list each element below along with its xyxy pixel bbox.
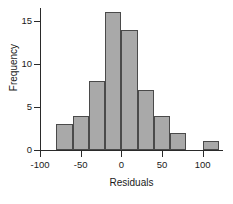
y-axis-label: Frequency <box>8 23 19 113</box>
x-tick-100 <box>203 151 204 157</box>
histogram-bar <box>170 133 186 150</box>
x-axis-label: Residuals <box>40 177 223 188</box>
x-axis-line <box>40 150 223 151</box>
histogram-bar <box>56 124 72 150</box>
x-tick-0 <box>121 151 122 157</box>
x-tick-label-50: 50 <box>142 160 182 170</box>
histogram-bars <box>40 8 223 150</box>
histogram-bar <box>138 90 154 150</box>
x-tick--100 <box>40 151 41 157</box>
histogram-figure: 051015 -100-50050100 Residuals Frequency <box>0 0 233 204</box>
x-tick-label--50: -50 <box>61 160 101 170</box>
x-tick-label-100: 100 <box>183 160 223 170</box>
y-tick-label-0: 0 <box>2 145 32 155</box>
x-tick-label-0: 0 <box>101 160 141 170</box>
histogram-bar <box>154 116 170 150</box>
histogram-bar <box>73 116 89 150</box>
histogram-bar <box>89 81 105 150</box>
histogram-bar <box>203 141 219 150</box>
x-tick-label--100: -100 <box>20 160 60 170</box>
histogram-bar <box>121 30 137 150</box>
x-tick--50 <box>81 151 82 157</box>
histogram-bar <box>105 12 121 150</box>
x-tick-50 <box>162 151 163 157</box>
